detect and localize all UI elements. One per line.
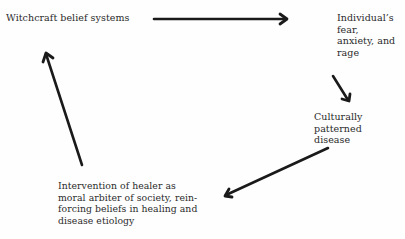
node-individual-fear: Individual’s fear, anxiety, and rage — [337, 12, 405, 58]
arrow-disease-to-healer — [225, 148, 328, 197]
arrow-healer-to-witchcraft — [43, 53, 82, 165]
node-healer-intervention: Intervention of healer as moral arbiter … — [58, 180, 197, 226]
node-witchcraft-belief-systems: Witchcraft belief systems — [6, 12, 129, 24]
node-culturally-patterned-disease: Culturally patterned disease — [314, 111, 405, 146]
arrow-witchcraft-to-fear — [154, 14, 287, 24]
arrow-fear-to-disease — [333, 76, 350, 101]
cycle-diagram: Witchcraft belief systems Individual’s f… — [0, 0, 405, 239]
